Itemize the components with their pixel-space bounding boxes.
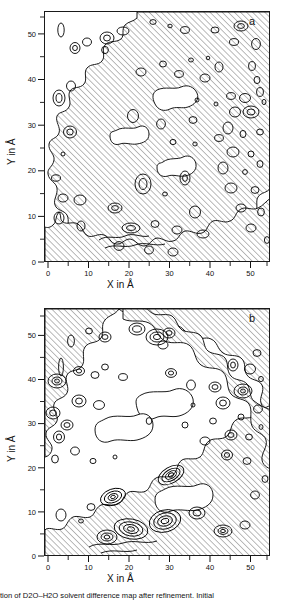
y-tick-label-a-20: 20 — [18, 166, 36, 175]
figure-caption: tion of D2O–H2O solvent difference map a… — [0, 591, 292, 600]
x-axis-label-a: X in Å — [107, 279, 134, 290]
axis-ticks-b — [0, 292, 292, 592]
y-tick-label-a-0: 0 — [18, 258, 36, 267]
x-tick-label-b-40: 40 — [202, 563, 218, 572]
axis-ticks-a — [0, 0, 292, 292]
x-tick-label-b-10: 10 — [81, 563, 97, 572]
y-tick-label-b-0: 0 — [18, 552, 36, 561]
y-tick-label-b-10: 10 — [18, 508, 36, 517]
x-tick-label-a-30: 30 — [162, 269, 178, 278]
y-tick-label-b-30: 30 — [18, 419, 36, 428]
y-tick-label-b-50: 50 — [18, 331, 36, 340]
x-tick-label-b-0: 0 — [40, 563, 56, 572]
y-tick-label-a-10: 10 — [18, 212, 36, 221]
x-tick-label-a-40: 40 — [202, 269, 218, 278]
x-tick-label-a-50: 50 — [243, 269, 259, 278]
x-tick-label-b-30: 30 — [162, 563, 178, 572]
y-tick-label-b-20: 20 — [18, 464, 36, 473]
x-tick-label-a-0: 0 — [40, 269, 56, 278]
y-axis-label-b: Y in Å — [6, 436, 17, 463]
x-tick-label-a-20: 20 — [121, 269, 137, 278]
y-axis-label-a: Y in Å — [6, 139, 17, 166]
x-tick-label-a-10: 10 — [81, 269, 97, 278]
x-axis-label-b: X in Å — [107, 573, 134, 584]
figure-contour-maps: a — [0, 0, 292, 600]
x-tick-label-b-50: 50 — [243, 563, 259, 572]
y-tick-label-a-40: 40 — [18, 75, 36, 84]
y-tick-label-a-30: 30 — [18, 121, 36, 130]
x-tick-label-b-20: 20 — [121, 563, 137, 572]
y-tick-label-b-40: 40 — [18, 375, 36, 384]
y-tick-label-a-50: 50 — [18, 30, 36, 39]
